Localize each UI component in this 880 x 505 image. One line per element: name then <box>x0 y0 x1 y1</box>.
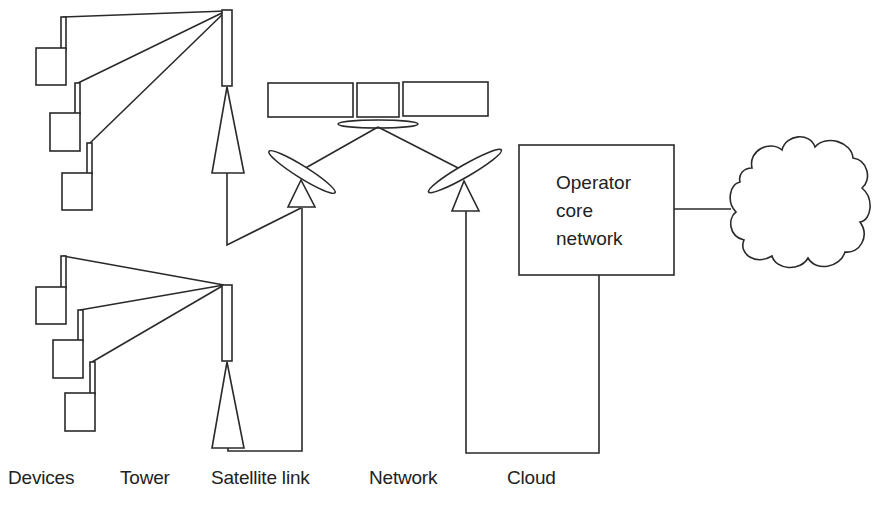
radio-link <box>63 11 226 17</box>
right-satellite-dish-icon <box>426 145 505 211</box>
label-cloud: Cloud <box>507 467 556 489</box>
lower-device-group <box>36 256 224 431</box>
radio-link <box>90 11 226 143</box>
upper-tower-icon <box>212 10 244 173</box>
satellite-beam <box>378 127 464 171</box>
device-icon <box>36 256 66 324</box>
tower-uplink-line <box>227 173 301 245</box>
satellite-antenna <box>338 120 418 128</box>
cloud-icon <box>730 137 870 268</box>
upper-device-group <box>36 11 226 210</box>
label-satellite-link: Satellite link <box>211 467 310 489</box>
satellite-beam <box>302 127 378 170</box>
satellite-body <box>357 83 399 117</box>
core-box-line1: Operator <box>556 172 632 193</box>
device-icon <box>62 143 92 210</box>
core-box-line3: network <box>556 228 623 249</box>
label-devices: Devices <box>8 467 74 489</box>
radio-link <box>78 11 226 83</box>
lower-tower-icon <box>212 285 244 448</box>
network-diagram: Operator core network <box>0 0 880 505</box>
device-icon <box>50 83 80 151</box>
operator-core-network-box: Operator core network <box>519 145 674 275</box>
device-icon <box>36 17 66 85</box>
label-network: Network <box>369 467 437 489</box>
solar-panel-right <box>403 82 488 116</box>
solar-panel-left <box>268 83 353 117</box>
label-tower: Tower <box>120 467 170 489</box>
satellite-icon <box>268 82 488 128</box>
tower-uplink-line <box>228 208 302 451</box>
core-box-line2: core <box>556 200 593 221</box>
radio-link <box>63 256 224 285</box>
